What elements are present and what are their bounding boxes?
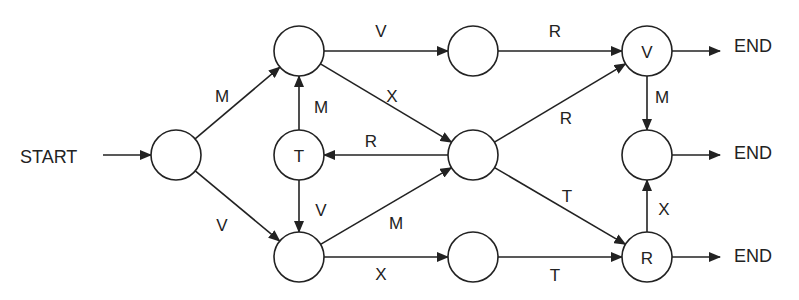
edge-label: R — [365, 132, 377, 151]
edge-label: T — [550, 266, 560, 285]
state-node-n1 — [274, 26, 324, 76]
edge-label: M — [314, 98, 328, 117]
edge-label: M — [215, 87, 229, 106]
edge-label: M — [389, 214, 403, 233]
edge-label: V — [216, 216, 228, 235]
end-label: END — [734, 246, 772, 266]
edge-label: R — [560, 109, 572, 128]
state-label: R — [641, 249, 653, 268]
edge-n0-n2 — [195, 171, 280, 241]
end-label: END — [734, 143, 772, 163]
start-label: START — [20, 147, 77, 167]
state-node-n2 — [274, 232, 324, 282]
edge-label: T — [562, 187, 572, 206]
state-node-n6 — [622, 130, 672, 180]
nodes: TVR — [151, 26, 672, 282]
edge-n4-nV — [494, 64, 625, 142]
end-label: END — [734, 36, 772, 56]
state-node-n4 — [448, 130, 498, 180]
edge-n4-nR — [495, 168, 626, 245]
state-label: T — [294, 147, 304, 166]
edge-label: X — [375, 265, 386, 284]
state-node-n0 — [151, 130, 201, 180]
state-node-n3 — [448, 26, 498, 76]
edge-n2-n4 — [321, 168, 452, 245]
state-label: V — [641, 43, 653, 62]
state-node-n5 — [448, 232, 498, 282]
edge-label: V — [375, 22, 387, 41]
edge-n0-n1 — [195, 67, 280, 139]
edge-label: X — [386, 87, 397, 106]
edge-label: V — [315, 201, 327, 220]
edge-label: X — [658, 200, 669, 219]
edge-label: M — [655, 88, 669, 107]
state-diagram: TVR MVVXMRVMXRRTTMX STARTENDENDEND — [0, 0, 799, 300]
edge-label: R — [549, 22, 561, 41]
